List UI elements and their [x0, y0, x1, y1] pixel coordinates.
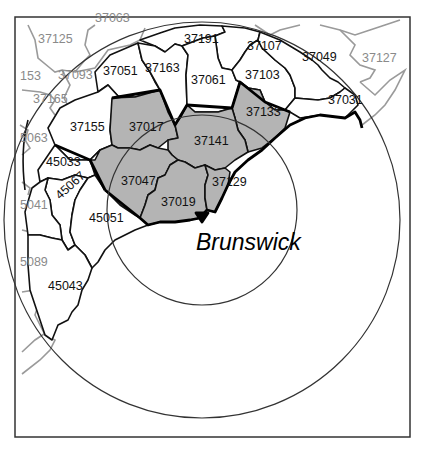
site-label: Brunswick: [196, 229, 302, 255]
county-label-37125: 37125: [38, 32, 73, 46]
county-label-37127: 37127: [362, 51, 397, 65]
county-label-45033: 45033: [46, 155, 81, 169]
county-label-37049: 37049: [302, 50, 337, 64]
county-label-37063: 37063: [95, 11, 130, 25]
county-label-45043: 45043: [48, 279, 83, 293]
county-label-37061: 37061: [191, 73, 226, 87]
county-label-37133: 37133: [246, 105, 281, 119]
county-label-37017: 37017: [129, 120, 164, 134]
county-label-37129: 37129: [212, 175, 247, 189]
county-label-37141: 37141: [194, 134, 229, 148]
county-label-37191: 37191: [184, 32, 219, 46]
county-label-5041: 5041: [20, 198, 48, 212]
county-label-37103: 37103: [245, 68, 280, 82]
county-label-153: 153: [20, 69, 41, 83]
county-label-37047: 37047: [121, 174, 156, 188]
county-label-37031: 37031: [328, 93, 363, 107]
county-radius-map: 3712537063153370933716550635041508937127…: [0, 0, 423, 454]
county-label-37019: 37019: [161, 195, 196, 209]
county-label-37155: 37155: [70, 120, 105, 134]
county-label-5089: 5089: [20, 255, 48, 269]
county-label-45051: 45051: [89, 211, 124, 225]
county-label-37051: 37051: [103, 64, 138, 78]
county-label-37093: 37093: [58, 68, 93, 82]
county-label-5063: 5063: [20, 131, 48, 145]
site-marker: [196, 213, 208, 222]
county-label-37107: 37107: [247, 39, 282, 53]
county-label-37165: 37165: [33, 92, 68, 106]
county-label-37163: 37163: [145, 61, 180, 75]
